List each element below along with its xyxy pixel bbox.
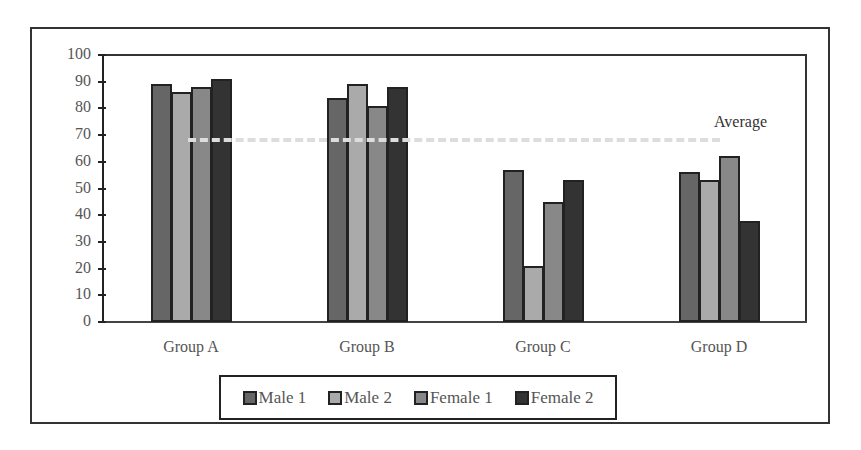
y-tick <box>98 321 106 323</box>
legend-label: Male 1 <box>259 388 307 408</box>
legend-item-female-1: Female 1 <box>414 388 493 408</box>
x-tick-label: Group A <box>131 338 251 356</box>
bar-male-1-group-d <box>679 172 700 322</box>
y-tick <box>98 161 106 163</box>
x-tick-label: Group C <box>483 338 603 356</box>
y-tick-label: 10 <box>51 286 91 302</box>
bar-female-1-group-a <box>191 87 212 322</box>
y-tick <box>98 188 106 190</box>
y-tick <box>98 134 106 136</box>
legend-swatch-icon <box>328 391 342 405</box>
y-tick-label: 30 <box>51 233 91 249</box>
bar-female-1-group-d <box>719 156 740 322</box>
legend-label: Female 1 <box>430 388 493 408</box>
bar-female-2-group-b <box>387 87 408 322</box>
y-tick <box>98 81 106 83</box>
legend-swatch-icon <box>515 391 529 405</box>
y-tick <box>98 54 106 56</box>
y-tick-label: 80 <box>51 99 91 115</box>
y-tick-label: 70 <box>51 126 91 142</box>
y-tick <box>98 268 106 270</box>
y-tick-label: 20 <box>51 260 91 276</box>
bar-male-2-group-a <box>171 92 192 322</box>
legend-label: Female 2 <box>531 388 594 408</box>
y-tick-label: 60 <box>51 153 91 169</box>
y-tick-label: 90 <box>51 73 91 89</box>
legend: Male 1Male 2Female 1Female 2 <box>219 375 617 420</box>
y-tick-label: 0 <box>51 313 91 329</box>
y-tick-label: 40 <box>51 206 91 222</box>
legend-swatch-icon <box>243 391 257 405</box>
y-tick <box>98 241 106 243</box>
bar-female-2-group-c <box>563 180 584 322</box>
legend-item-male-1: Male 1 <box>243 388 307 408</box>
y-tick <box>98 107 106 109</box>
legend-item-male-2: Male 2 <box>328 388 392 408</box>
average-line <box>188 138 720 142</box>
bar-female-2-group-a <box>211 79 232 322</box>
bar-male-1-group-c <box>503 170 524 322</box>
y-tick <box>98 214 106 216</box>
y-tick-label: 50 <box>51 180 91 196</box>
bar-male-2-group-c <box>523 266 544 322</box>
x-tick-label: Group B <box>307 338 427 356</box>
legend-label: Male 2 <box>344 388 392 408</box>
bar-female-1-group-c <box>543 202 564 322</box>
y-tick-label: 100 <box>51 46 91 62</box>
average-label: Average <box>714 113 767 131</box>
bar-male-1-group-b <box>327 98 348 322</box>
bar-male-1-group-a <box>151 84 172 322</box>
y-tick <box>98 294 106 296</box>
legend-swatch-icon <box>414 391 428 405</box>
legend-item-female-2: Female 2 <box>515 388 594 408</box>
bar-female-2-group-d <box>739 221 760 322</box>
bar-male-2-group-b <box>347 84 368 322</box>
x-tick-label: Group D <box>659 338 779 356</box>
bar-male-2-group-d <box>699 180 720 322</box>
